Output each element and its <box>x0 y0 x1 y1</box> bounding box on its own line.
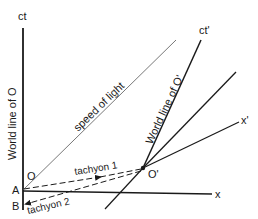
point-A-label: A <box>12 184 20 196</box>
point-O-prime-label: O' <box>148 168 159 180</box>
ct-axis-label: ct <box>18 10 27 22</box>
tachyon-2-path <box>26 171 141 204</box>
ct-prime-axis-lower-extension <box>105 168 143 209</box>
spacetime-diagram: ct World line of O x speed of light ct' … <box>0 0 258 219</box>
point-O-label: O <box>27 170 36 182</box>
world-line-O-prime-label: World line of O' <box>143 73 185 146</box>
point-B-label: B <box>12 200 19 212</box>
x-axis-label: x <box>215 188 221 200</box>
x-prime-axis-label: x' <box>241 114 249 126</box>
tachyon-2-label: tachyon 2 <box>26 195 71 216</box>
speed-of-light-label: speed of light <box>71 79 126 133</box>
x-axis <box>23 191 212 194</box>
ct-prime-axis-label: ct' <box>199 24 210 36</box>
point-O-prime <box>141 166 145 170</box>
world-line-O-label: World line of O <box>6 87 18 160</box>
